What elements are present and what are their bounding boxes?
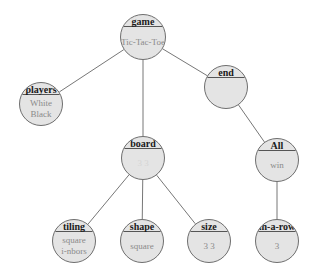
node-value: square [62, 235, 86, 246]
edge-end-all [239, 105, 265, 142]
node-values: squarei-nbors [53, 232, 95, 260]
node-value: win [270, 160, 284, 171]
node-label: size [188, 220, 230, 232]
node-label: shape [121, 220, 163, 232]
node-values: 3 3 [188, 232, 230, 260]
edge-board-tiling [88, 175, 129, 224]
node-values: Tic-Tac-Toe [121, 27, 165, 57]
node-label: players [20, 83, 62, 95]
node-tiling[interactable]: tilingsquarei-nbors [52, 219, 96, 263]
node-end[interactable]: end [204, 65, 248, 109]
node-value: i-nbors [61, 246, 87, 257]
node-label: in-a-row [256, 220, 298, 232]
edge-game-players [59, 50, 123, 92]
node-values: WhiteBlack [20, 95, 62, 123]
node-value: 3 3 [203, 241, 214, 252]
node-value: 3 [275, 241, 280, 252]
node-values [205, 78, 247, 106]
node-label: All [256, 139, 298, 151]
node-shape[interactable]: shapesquare [120, 219, 164, 263]
node-values: 3 3 [122, 149, 164, 177]
node-all[interactable]: Allwin [255, 138, 299, 182]
node-players[interactable]: playersWhiteBlack [19, 82, 63, 126]
node-label: tiling [53, 220, 95, 232]
node-value: White [30, 98, 52, 109]
node-values: win [256, 151, 298, 179]
node-game[interactable]: gameTic-Tac-Toe [120, 14, 166, 60]
node-label: end [205, 66, 247, 78]
edge-game-end [163, 49, 207, 76]
node-label: board [122, 137, 164, 149]
tree-diagram: gameTic-Tac-ToeplayersWhiteBlackendboard… [0, 0, 315, 277]
node-values: square [121, 232, 163, 260]
node-value: Tic-Tac-Toe [121, 37, 165, 48]
node-in-a-row[interactable]: in-a-row3 [255, 219, 299, 263]
node-value: square [130, 241, 154, 252]
node-board[interactable]: board3 3 [121, 136, 165, 180]
node-values: 3 [256, 232, 298, 260]
node-value: 3 3 [137, 158, 148, 169]
edge-board-size [157, 175, 196, 224]
node-size[interactable]: size3 3 [187, 219, 231, 263]
node-value: Black [31, 109, 52, 120]
node-label: game [121, 15, 165, 27]
